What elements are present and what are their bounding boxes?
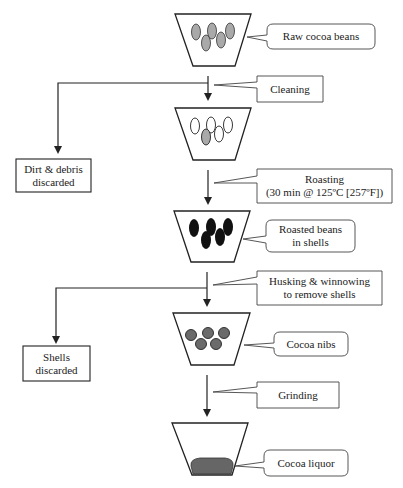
label-grinding: Grinding [257,382,339,408]
label-cocoa-liquor: Cocoa liquor [264,450,348,476]
label-cleaning: Cleaning [257,76,323,102]
label-raw-beans: Raw cocoa beans [267,24,375,49]
raw-beans-container [175,14,251,66]
roasted-line1: Roasted beans [279,223,342,236]
cocoa-nibs-container [173,313,250,365]
label-husking: Husking & winnowing to remove shells [257,271,382,305]
dirt-line2: discarded [32,176,74,189]
roasting-line2: (30 min @ 125ºC [257ºF]) [266,186,383,199]
label-dirt-discarded: Dirt & debris discarded [16,159,91,192]
shells-line2: discarded [35,364,77,377]
shells-line1: Shells [43,351,70,364]
roasted-beans-container [174,211,250,262]
dirt-line1: Dirt & debris [24,163,83,176]
label-shells-discarded: Shells discarded [23,346,90,381]
cocoa-liquor-container [172,423,248,475]
label-cocoa-nibs: Cocoa nibs [274,332,348,356]
label-roasting: Roasting (30 min @ 125ºC [257ºF]) [257,169,392,203]
label-roasted-beans: Roasted beans in shells [266,220,355,252]
liquor-fill [191,458,233,474]
roasting-line1: Roasting [305,173,344,186]
cleaned-beans-container [175,108,251,160]
husking-line1: Husking & winnowing [269,275,370,288]
roasted-line2: in shells [292,236,328,249]
husking-line2: to remove shells [283,288,355,301]
